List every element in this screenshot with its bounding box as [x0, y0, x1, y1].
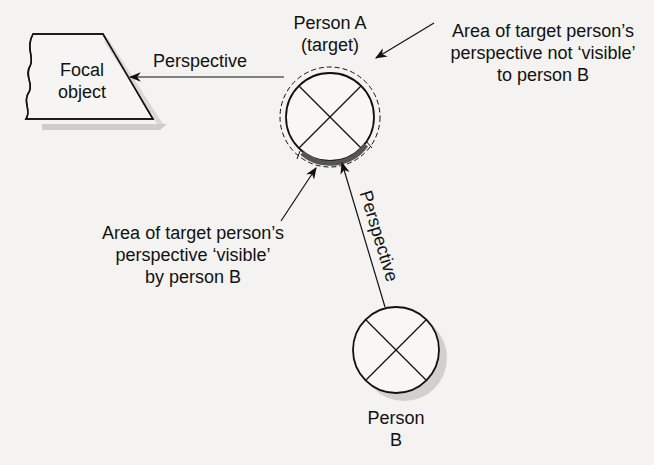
annotation-not-visible: Area of target person’s perspective not …	[434, 20, 652, 86]
annotation-arrow-visible	[281, 168, 316, 221]
perspective-label-left: Perspective	[153, 50, 247, 72]
focal-object-label: Focal object	[48, 59, 116, 103]
person-b-label: Person B	[366, 407, 426, 451]
person-b-symbol	[353, 307, 447, 401]
annotation-arrow-not-visible	[376, 23, 434, 58]
person-a-label: Person A (target)	[288, 12, 372, 56]
person-a-symbol	[280, 67, 380, 167]
annotation-visible: Area of target person’s perspective ‘vis…	[90, 222, 296, 288]
